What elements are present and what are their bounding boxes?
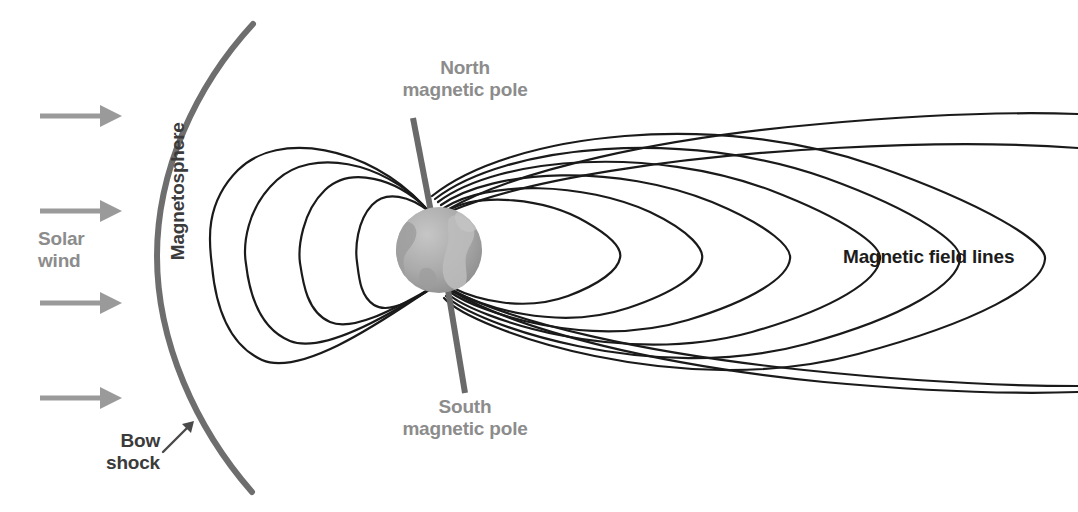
magnetic-field-lines-label: Magnetic field lines (843, 246, 1014, 268)
earth-globe (392, 207, 482, 293)
solar-wind-arrow-4 (40, 387, 122, 409)
solar-wind-arrow-2 (40, 200, 122, 222)
bow-shock-label: Bowshock (20, 430, 160, 475)
north-magnetic-pole-label: Northmagnetic pole (345, 57, 585, 102)
solar-wind-arrow-3 (40, 292, 122, 314)
open-field-line-north-right-2 (451, 144, 1078, 211)
field-line-left-4 (210, 148, 427, 363)
solar-wind-label: Solarwind (38, 228, 85, 273)
bow-shock-label-line1: Bow (120, 430, 160, 451)
solar-wind-arrow-1 (40, 105, 122, 127)
south-pole-label-line1: South (439, 396, 492, 417)
north-pole-label-line1: North (440, 57, 490, 78)
north-pole-label-line2: magnetic pole (402, 79, 527, 100)
magnetosphere-diagram: Solarwind Northmagnetic pole Southmagnet… (0, 0, 1078, 512)
solar-wind-label-line2: wind (38, 250, 80, 271)
bow-shock-pointer-arrow (163, 421, 194, 452)
south-pole-label-line2: magnetic pole (402, 418, 527, 439)
open-field-line-south-right-1 (452, 291, 1078, 393)
magnetosphere-label: Magnetosphere (167, 116, 189, 266)
solar-wind-label-line1: Solar (38, 228, 85, 249)
south-magnetic-pole-label: Southmagnetic pole (345, 396, 585, 441)
bow-shock-label-line2: shock (106, 452, 160, 473)
magnetic-axis-south-segment (448, 290, 465, 393)
